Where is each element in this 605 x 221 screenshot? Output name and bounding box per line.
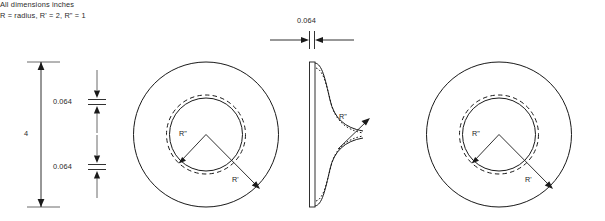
front-view-right bbox=[0, 0, 605, 221]
radius-leader-inner-right bbox=[474, 135, 499, 162]
radius-label-inner-right: R" bbox=[472, 129, 480, 138]
engineering-drawing-sheet: All dimensions inches R = radius, R' = 2… bbox=[0, 0, 605, 221]
radius-label-outer-right: R' bbox=[525, 175, 532, 184]
